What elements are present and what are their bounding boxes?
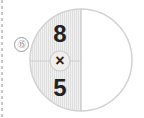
bottom-number: 5 — [40, 74, 80, 102]
top-number: 8 — [40, 20, 80, 48]
multiply-icon: × — [52, 52, 68, 70]
